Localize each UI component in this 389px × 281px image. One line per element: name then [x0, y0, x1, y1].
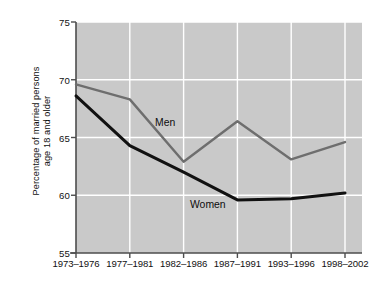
x-tick-label: 1998–2002 [321, 258, 368, 269]
y-axis-title-line-1: Percentage of married persons [31, 66, 42, 195]
y-tick-label: 60 [48, 190, 70, 201]
x-tick-label: 1993–1996 [268, 258, 315, 269]
x-tick-label: 1982–1986 [160, 258, 207, 269]
x-tick-label: 1973–1976 [52, 258, 99, 269]
x-axis-tick-labels: 1973–19761977–19811982–19861987–19911993… [0, 258, 389, 274]
y-tick-label: 70 [48, 74, 70, 85]
y-tick-label: 65 [48, 132, 70, 143]
y-tick-label: 75 [48, 17, 70, 28]
x-tick-label: 1977–1981 [106, 258, 153, 269]
y-axis-tick-labels: 5560657075 [46, 0, 70, 281]
series-label-men: Men [155, 117, 175, 128]
y-tick-label: 55 [48, 248, 70, 259]
series-label-women: Women [190, 199, 226, 210]
x-tick-label: 1987–1991 [214, 258, 261, 269]
line-chart: Percentage of married persons age 18 and… [0, 0, 389, 281]
